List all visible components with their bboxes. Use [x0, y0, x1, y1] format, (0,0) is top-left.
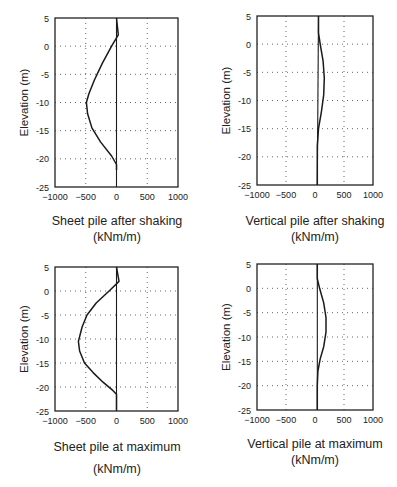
moment-curve	[317, 264, 326, 410]
caption-units: (kNm/m)	[27, 229, 207, 245]
x-tick-label: −1000	[244, 415, 269, 425]
y-tick-label: 5	[246, 260, 251, 270]
caption-title: Sheet pile after shaking	[27, 213, 207, 229]
plot-frame	[257, 264, 373, 410]
y-tick-label: -20	[238, 381, 251, 391]
x-tick-label: −500	[276, 415, 296, 425]
caption-units: (kNm/m)	[225, 229, 397, 245]
y-tick-label: 0	[246, 284, 251, 294]
x-tick-label: 1000	[363, 415, 383, 425]
caption-title: Sheet pile at maximum	[27, 436, 207, 458]
grid-lines	[257, 264, 373, 410]
caption-units: (kNm/m)	[225, 452, 397, 468]
caption-vertical-pile-after-shaking: Vertical pile after shaking (kNm/m)	[225, 213, 397, 245]
caption-sheet-pile-at-maximum: Sheet pile at maximum (kNm/m)	[27, 436, 207, 480]
y-tick-label: -10	[238, 333, 251, 343]
caption-title: Vertical pile at maximum	[225, 436, 397, 452]
x-tick-label: 0	[312, 415, 317, 425]
caption-vertical-pile-at-maximum: Vertical pile at maximum (kNm/m)	[225, 436, 397, 468]
caption-title: Vertical pile after shaking	[225, 213, 397, 229]
x-tick-label: 500	[336, 415, 351, 425]
y-tick-label: -15	[238, 357, 251, 367]
y-tick-label: -5	[243, 308, 251, 318]
y-axis-label: Elevation (m)	[220, 303, 232, 371]
caption-units: (kNm/m)	[27, 458, 207, 480]
caption-sheet-pile-after-shaking: Sheet pile after shaking (kNm/m)	[27, 213, 207, 245]
y-tick-label: -25	[238, 406, 251, 416]
